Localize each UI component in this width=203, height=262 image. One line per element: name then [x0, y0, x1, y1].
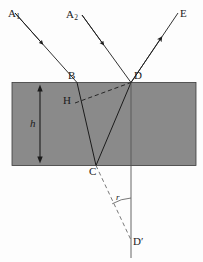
label-point-d: D — [134, 70, 142, 81]
label-angle-r: r — [116, 193, 120, 202]
label-emergent-ray: E — [180, 8, 187, 19]
label-point-h: H — [63, 95, 71, 106]
label-thickness-h: h — [30, 118, 36, 129]
optics-figure: A1 A2 E B H D C D′ h r — [0, 0, 203, 262]
label-point-c: C — [89, 166, 96, 177]
figure-canvas — [0, 0, 203, 262]
incident-ray-2-arrowhead — [82, 15, 103, 44]
label-incident-ray-2: A2 — [66, 9, 78, 22]
label-point-b: B — [68, 70, 75, 81]
label-incident-ray-1: A1 — [8, 8, 20, 21]
label-point-d-prime: D′ — [133, 236, 143, 247]
